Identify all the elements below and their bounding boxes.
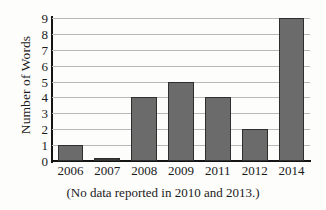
y-tick-label: 5 (32, 75, 48, 88)
x-tick-label: 2011 (199, 164, 236, 178)
x-tick-label: 2008 (126, 164, 163, 178)
y-tick-label: 8 (32, 27, 48, 40)
gridline (52, 34, 310, 35)
bar (168, 82, 194, 161)
bar (131, 97, 157, 161)
x-tick-label: 2006 (52, 164, 89, 178)
x-tick-label: 2007 (89, 164, 126, 178)
y-tick-label: 1 (32, 139, 48, 152)
chart-caption: (No data reported in 2010 and 2013.) (0, 185, 326, 201)
x-tick-label: 2014 (273, 164, 310, 178)
gridline (52, 18, 310, 19)
bar (205, 97, 231, 161)
y-tick-label: 4 (32, 91, 48, 104)
bar (94, 158, 120, 161)
bar (279, 18, 305, 161)
x-axis-tick-labels: 2006200720082009201120122014 (52, 164, 310, 182)
y-axis-tick-labels: 0123456789 (28, 18, 48, 161)
bar (58, 145, 84, 161)
y-tick-label: 7 (32, 43, 48, 56)
y-tick-label: 0 (32, 155, 48, 168)
y-tick-label: 6 (32, 59, 48, 72)
y-tick-label: 3 (32, 107, 48, 120)
bar-chart-figure: Number of Words 0123456789 2006200720082… (0, 0, 326, 210)
plot-area (52, 18, 310, 161)
y-tick-label: 9 (32, 12, 48, 25)
x-tick-label: 2009 (163, 164, 200, 178)
bar (242, 129, 268, 161)
gridline (52, 50, 310, 51)
x-tick-label: 2012 (236, 164, 273, 178)
y-tick-label: 2 (32, 123, 48, 136)
gridline (52, 66, 310, 67)
